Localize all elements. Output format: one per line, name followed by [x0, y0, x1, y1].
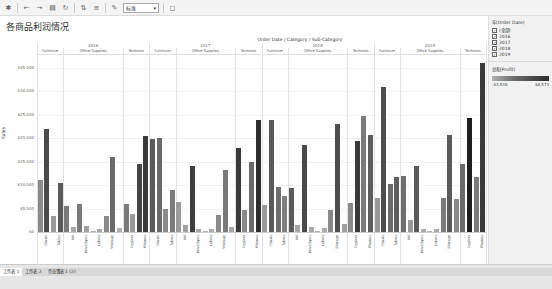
- checkbox[interactable]: ✓: [492, 46, 497, 51]
- x-axis-label: Copiers: [467, 235, 471, 248]
- tableau-logo-icon[interactable]: ✱: [4, 3, 13, 13]
- bar-tables[interactable]: [58, 183, 63, 232]
- bar-bookcases[interactable]: [150, 139, 155, 232]
- toolbar-divider: [105, 3, 106, 13]
- x-axis-label: Chairs: [381, 235, 385, 246]
- checkbox[interactable]: ✓: [492, 52, 497, 57]
- bar-appliances[interactable]: [289, 188, 294, 232]
- bar-furnishings[interactable]: [276, 187, 281, 232]
- bar-tables[interactable]: [282, 196, 287, 232]
- bar-storage[interactable]: [335, 124, 340, 232]
- redo-icon[interactable]: →: [35, 3, 44, 13]
- bar-chairs[interactable]: [44, 129, 49, 232]
- toolbar: ✱ ← → ▤ ↻ ⇅ ≡ ✎ 标准 ▾ ◻: [0, 0, 552, 16]
- category-header: Office Supplies: [176, 48, 235, 55]
- bar-phones[interactable]: [143, 136, 148, 232]
- bar-bookcases[interactable]: [38, 180, 43, 232]
- bar-furnishings[interactable]: [388, 184, 393, 232]
- bar-tables[interactable]: [170, 190, 175, 232]
- year-filter-label: (全部): [499, 27, 511, 33]
- bar-chairs[interactable]: [269, 120, 274, 232]
- bar-bookcases[interactable]: [262, 205, 267, 232]
- bar-furnishings[interactable]: [51, 216, 56, 232]
- bar-tables[interactable]: [394, 177, 399, 232]
- bar-appliances[interactable]: [64, 206, 69, 232]
- bar-appliances[interactable]: [176, 202, 181, 232]
- bar-art[interactable]: [295, 225, 300, 232]
- bar-appliances[interactable]: [401, 176, 406, 232]
- x-axis-label: Phones: [255, 235, 259, 248]
- bar-binders[interactable]: [414, 166, 419, 232]
- y-tick-label: $35,000: [4, 65, 34, 70]
- x-axis-label: Copiers: [354, 235, 358, 248]
- bar-accessories[interactable]: [124, 204, 129, 232]
- highlight-icon[interactable]: ✎: [110, 3, 119, 13]
- bar-paper[interactable]: [104, 216, 109, 232]
- bar-chairs[interactable]: [381, 87, 386, 232]
- x-axis-label: Art: [71, 235, 75, 240]
- category-header: Technolo: [460, 48, 486, 55]
- bar-phones[interactable]: [256, 120, 261, 232]
- bar-supplies[interactable]: [454, 199, 459, 232]
- x-axis-label: Chairs: [44, 235, 48, 246]
- bar-paper[interactable]: [441, 198, 446, 232]
- bar-chairs[interactable]: [157, 138, 162, 232]
- bar-binders[interactable]: [77, 204, 82, 232]
- bar-binders[interactable]: [302, 145, 307, 232]
- tooltip-icon[interactable]: ◻: [168, 3, 177, 13]
- bar-copiers[interactable]: [355, 141, 360, 232]
- sort-icon[interactable]: ≡: [92, 3, 101, 13]
- bar-paper[interactable]: [328, 210, 333, 232]
- toolbar-divider: [74, 3, 75, 13]
- sheet-tab[interactable]: 工作表 2: [22, 268, 44, 276]
- bar-chart: Order Date / Category / Sub-Category Sal…: [0, 34, 488, 264]
- color-gradient: [492, 76, 549, 81]
- bar-machines[interactable]: [474, 177, 479, 232]
- category-header: Technolo: [123, 48, 149, 55]
- bar-copiers[interactable]: [242, 210, 247, 232]
- x-axis-label: Copiers: [242, 235, 246, 248]
- bar-furnishings[interactable]: [163, 209, 168, 232]
- x-axis-label: Storage: [335, 235, 339, 249]
- bar-bookcases[interactable]: [375, 198, 380, 232]
- bar-storage[interactable]: [447, 135, 452, 232]
- bar-paper[interactable]: [216, 215, 221, 232]
- bar-phones[interactable]: [480, 63, 485, 232]
- refresh-icon[interactable]: ↻: [61, 3, 70, 13]
- checkbox[interactable]: ✓: [492, 40, 497, 45]
- swap-icon[interactable]: ⇅: [79, 3, 88, 13]
- year-filter-label: 2017: [499, 40, 510, 45]
- toolbar-divider: [17, 3, 18, 13]
- bar-art[interactable]: [183, 225, 188, 232]
- bar-machines[interactable]: [249, 162, 254, 232]
- column-header-title: Order Date / Category / Sub-Category: [200, 37, 400, 42]
- bar-art[interactable]: [408, 220, 413, 232]
- sheet-tab[interactable]: 工作表 1: [0, 268, 22, 276]
- x-axis-label: Chairs: [269, 235, 273, 246]
- fit-select[interactable]: 标准 ▾: [123, 3, 159, 13]
- checkbox[interactable]: ✓: [492, 28, 497, 33]
- bar-supplies[interactable]: [342, 224, 347, 232]
- category-header: Furniture: [262, 48, 288, 55]
- bar-copiers[interactable]: [130, 214, 135, 232]
- year-filter-item[interactable]: ✓2019: [489, 51, 552, 57]
- bar-accessories[interactable]: [348, 203, 353, 232]
- x-axis-label: Envelopes: [420, 235, 424, 253]
- bar-accessories[interactable]: [236, 148, 241, 232]
- sheet-tab[interactable]: 作业簿表 1 (2): [45, 268, 79, 276]
- bar-storage[interactable]: [223, 170, 228, 232]
- undo-icon[interactable]: ←: [22, 3, 31, 13]
- bar-machines[interactable]: [137, 164, 142, 232]
- y-tick-label: $20,000: [4, 135, 34, 140]
- checkbox[interactable]: ✓: [492, 34, 497, 39]
- bar-storage[interactable]: [110, 157, 115, 232]
- bar-machines[interactable]: [361, 116, 366, 232]
- bar-copiers[interactable]: [467, 118, 472, 232]
- bar-accessories[interactable]: [460, 164, 465, 232]
- x-axis-label: Phones: [143, 235, 147, 248]
- year-filter-label: 2018: [499, 46, 510, 51]
- save-icon[interactable]: ▤: [48, 3, 57, 13]
- bar-phones[interactable]: [368, 135, 373, 232]
- x-axis-label: Art: [295, 235, 299, 240]
- bar-binders[interactable]: [190, 166, 195, 232]
